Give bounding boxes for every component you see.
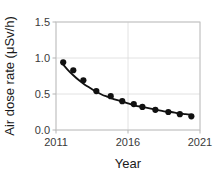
x-tick-labels: 201120162021 [44,136,212,148]
y-tick-label: 0.0 [35,124,50,136]
y-tick-label: 1.5 [35,16,50,28]
data-point [60,59,66,65]
chart-plot-svg: 0.00.51.01.5 201120162021 Air dose rate … [0,0,217,180]
data-point [70,67,76,73]
data-point [108,93,114,99]
y-tick-label: 1.0 [35,52,50,64]
y-tick-labels: 0.00.51.01.5 [35,16,50,136]
x-tick-label: 2021 [188,136,212,148]
data-point [152,107,158,113]
y-tick-label: 0.5 [35,88,50,100]
x-axis-title: Year [115,156,142,171]
data-point [188,113,194,119]
data-point [131,101,137,107]
data-point [119,98,125,104]
y-axis-title: Air dose rate (μSv/h) [2,16,17,135]
x-tick-marks [56,130,200,134]
data-point [80,77,86,83]
x-tick-label: 2011 [44,136,68,148]
y-tick-marks [53,22,57,130]
data-point [177,111,183,117]
data-point [139,104,145,110]
x-tick-label: 2016 [116,136,140,148]
data-point [165,109,171,115]
data-point [93,88,99,94]
chart-figure: 0.00.51.01.5 201120162021 Air dose rate … [0,0,217,180]
